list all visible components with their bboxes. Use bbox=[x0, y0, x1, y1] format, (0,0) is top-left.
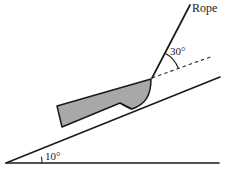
incline-angle-arc bbox=[41, 157, 42, 163]
rope-angle-label: 30° bbox=[170, 45, 185, 57]
diagram-svg: Rope 30° 10° bbox=[0, 0, 226, 171]
rope-line bbox=[152, 5, 190, 78]
physics-diagram-canvas: Rope 30° 10° bbox=[0, 0, 226, 171]
incline-angle-label: 10° bbox=[45, 150, 60, 162]
rope-label: Rope bbox=[192, 1, 217, 15]
block-shape bbox=[57, 79, 151, 127]
